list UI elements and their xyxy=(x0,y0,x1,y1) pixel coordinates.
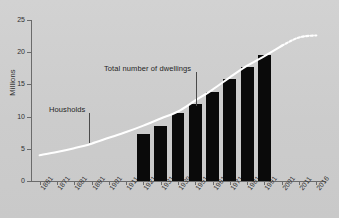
annotation-households-leader xyxy=(89,113,90,143)
annotation-households-label: Housholds xyxy=(49,105,85,114)
annotation-dwellings-label: Total number of dwellings xyxy=(104,64,191,73)
annotation-dwellings-leader xyxy=(196,72,197,106)
chart-figure: Millions 0510152025 18611871188118911901… xyxy=(0,0,339,218)
